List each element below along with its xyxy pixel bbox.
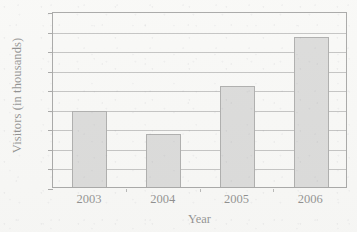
bar bbox=[294, 37, 329, 187]
bar bbox=[146, 134, 181, 187]
x-axis-tick-label: 2003 bbox=[52, 192, 126, 207]
bar bbox=[72, 111, 107, 187]
bar bbox=[220, 86, 255, 187]
bar-chart-screenshot: Visitors (in thousands) 8608408208007807… bbox=[0, 0, 357, 232]
y-axis-tick bbox=[48, 130, 53, 131]
y-axis-title: Visitors (in thousands) bbox=[10, 3, 25, 189]
y-axis-tick bbox=[48, 33, 53, 34]
y-axis-tick bbox=[48, 169, 53, 170]
y-axis-tick bbox=[48, 13, 53, 14]
x-axis-tick-label: 2005 bbox=[199, 192, 273, 207]
x-axis-tick-label: 2004 bbox=[126, 192, 200, 207]
plot-area bbox=[52, 12, 347, 188]
y-axis-tick bbox=[48, 111, 53, 112]
y-axis-tick bbox=[48, 72, 53, 73]
y-axis-tick bbox=[48, 150, 53, 151]
x-axis-tick-label: 2006 bbox=[273, 192, 347, 207]
y-axis-tick bbox=[48, 189, 53, 190]
y-axis-tick bbox=[48, 52, 53, 53]
y-axis-tick bbox=[48, 91, 53, 92]
gridline bbox=[53, 33, 346, 34]
x-axis-title: Year bbox=[52, 212, 347, 227]
